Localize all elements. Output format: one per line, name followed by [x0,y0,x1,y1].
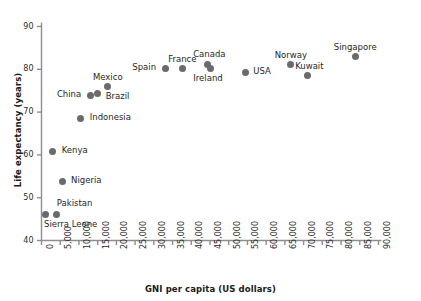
data-point-label: Pakistan [57,198,93,208]
y-tick-label: 40 [12,236,34,245]
x-tick-label: 25,000 [139,221,148,249]
x-tick-label: 85,000 [364,221,373,249]
x-tick-label: 15,000 [102,221,111,249]
data-point-label: Kenya [62,145,88,155]
data-point-singapore[interactable] [352,53,359,60]
data-point-label: Ireland [0,73,416,83]
x-tick-label: 50,000 [233,221,242,249]
data-point-kuwait[interactable] [304,72,311,79]
x-tick-label: 0 [46,243,55,248]
x-tick-label: 30,000 [158,221,167,249]
data-point-label: Kuwait [0,61,421,71]
x-tick-label: 75,000 [326,221,335,249]
x-tick-label: 65,000 [289,221,298,249]
data-point-label: Singapore [0,42,421,52]
x-tick-label: 60,000 [270,221,279,249]
data-point-label: Sierra Leone [44,219,97,229]
x-tick-label: 70,000 [308,221,317,249]
x-tick-label: 80,000 [345,221,354,249]
data-point-label: Indonesia [90,112,131,122]
x-tick-label: 45,000 [214,221,223,249]
data-point-china[interactable] [87,92,94,99]
x-tick-label: 40,000 [195,221,204,249]
data-point-label: Brazil [106,91,130,101]
y-tick-label: 90 [12,22,34,31]
y-axis-title: Life expectancy (years) [13,55,23,205]
scatter-chart: 40506070809005,00010,00015,00020,00025,0… [0,0,421,301]
data-point-label: Nigeria [71,175,101,185]
x-tick-label: 35,000 [177,221,186,249]
x-tick-label: 20,000 [120,221,129,249]
x-tick-label: 55,000 [251,221,260,249]
x-tick-label: 90,000 [383,221,392,249]
x-axis-title: GNI per capita (US dollars) [0,284,421,294]
data-point-nigeria[interactable] [59,178,66,185]
data-point-brazil[interactable] [94,90,101,97]
